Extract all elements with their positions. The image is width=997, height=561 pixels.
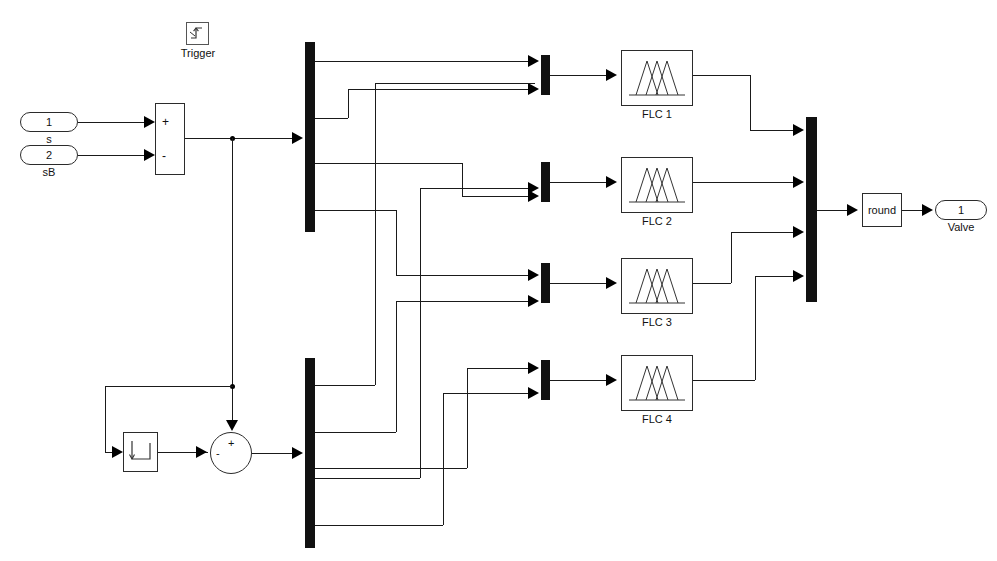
- flc-3-block[interactable]: [621, 258, 693, 314]
- input-port-s[interactable]: 1: [20, 112, 78, 132]
- demux-bottom-out-1-seg1: [315, 385, 375, 386]
- flc-4-label: FLC 4: [621, 413, 693, 426]
- wire-flc3-out-seg2: [731, 232, 732, 283]
- wire-sB-to-sum: [78, 155, 147, 156]
- arrow-into-flc2: [606, 176, 617, 188]
- wire-mux3-to-flc3: [550, 283, 608, 284]
- sum-block[interactable]: [155, 103, 185, 175]
- arrow-into-unit-delay: [112, 446, 123, 458]
- flc-3-label: FLC 3: [621, 316, 693, 329]
- mux-flc-4-block[interactable]: [541, 360, 550, 400]
- output-port-valve[interactable]: 1: [935, 200, 987, 220]
- sum-block-minus-sign: -: [162, 150, 166, 162]
- wire-branch-to-delay-left: [105, 386, 106, 452]
- demux-top-out-4-seg3: [396, 275, 535, 276]
- wire-mux1-to-flc1: [550, 75, 608, 76]
- demux-bottom-out-3-seg1: [315, 478, 420, 479]
- trigger-block[interactable]: [186, 22, 209, 45]
- demux-top-out-2-seg1: [315, 118, 348, 119]
- arrow-demux-top-4-to-mux3: [528, 269, 539, 281]
- mux-flc-2-block[interactable]: [541, 162, 550, 202]
- demux-top-out-4-seg1: [315, 210, 396, 211]
- demux-top-block[interactable]: [305, 42, 315, 232]
- demux-bottom-out-2-seg2: [396, 301, 397, 432]
- sum-circle-plus-sign: +: [228, 438, 234, 449]
- wire-mux-right-to-round: [817, 210, 849, 211]
- demux-top-out-3-seg2: [462, 163, 463, 196]
- rising-edge-trigger-icon: [187, 23, 208, 44]
- wire-to-mux4-top-tail: [315, 468, 467, 469]
- output-port-valve-number: 1: [958, 204, 964, 216]
- arrow-into-demux-top: [292, 132, 303, 144]
- round-block[interactable]: round: [862, 193, 902, 227]
- arrow-demux-top-2-to-mux1: [528, 83, 539, 95]
- wire-flc3-out-seg1: [693, 283, 731, 284]
- arrow-into-flc1: [606, 69, 617, 81]
- wire-flc3-out-seg3: [731, 232, 800, 233]
- wire-flc1-out-seg1: [693, 75, 750, 76]
- mux-flc-3-block[interactable]: [541, 263, 550, 303]
- arrow-flc1-into-mux-right: [793, 124, 804, 136]
- round-block-label: round: [868, 204, 896, 216]
- demux-bottom-out-3-seg3: [420, 188, 535, 189]
- wire-s-to-sum: [78, 122, 147, 123]
- demux-top-out-4-seg2: [396, 210, 397, 275]
- arrow-demux-bottom-4-to-mux4: [528, 387, 539, 399]
- arrow-flc4-into-mux-right: [793, 270, 804, 282]
- flc-1-label: FLC 1: [621, 108, 693, 121]
- arrow-into-flc4: [606, 374, 617, 386]
- demux-bottom-out-4-seg1: [315, 525, 443, 526]
- sum-circle-minus-sign: -: [216, 448, 220, 459]
- mux-flc-1-block[interactable]: [541, 55, 550, 95]
- unit-delay-block[interactable]: [123, 432, 158, 472]
- wire-demux-bottom-1-to-mux1: [375, 83, 535, 84]
- triangular-membership-functions-icon: [622, 356, 692, 410]
- output-port-valve-label: Valve: [935, 221, 987, 234]
- arrow-sB-to-sum: [144, 149, 155, 161]
- arrow-into-round: [847, 204, 858, 216]
- arrow-flc2-into-mux-right: [793, 176, 804, 188]
- arrow-into-sum-circle-left: [196, 446, 207, 458]
- input-port-sB-number: 2: [46, 149, 52, 161]
- demux-bottom-out-4-seg2: [443, 393, 444, 525]
- mux-right-block[interactable]: [806, 117, 817, 302]
- demux-top-out-2-seg3: [348, 89, 535, 90]
- wire-flc1-out-seg2: [750, 75, 751, 130]
- input-port-sB-label: sB: [20, 166, 78, 179]
- wire-mux2-to-flc2: [550, 182, 608, 183]
- flc-2-label: FLC 2: [621, 215, 693, 228]
- demux-bottom-out-2-seg3: [396, 301, 535, 302]
- input-port-sB[interactable]: 2: [20, 145, 78, 165]
- arrow-s-to-sum: [144, 116, 155, 128]
- wire-branch-to-delay-top: [105, 386, 233, 387]
- wire-mux4-to-flc4: [550, 380, 608, 381]
- demux-bottom-block[interactable]: [305, 358, 315, 548]
- flc-2-block[interactable]: [621, 157, 693, 213]
- demux-top-out-2-seg2: [348, 89, 349, 118]
- arrow-demux-top-1-to-mux1: [528, 55, 539, 67]
- demux-bottom-out-1-seg2: [375, 83, 376, 385]
- triangular-membership-functions-icon: [622, 158, 692, 212]
- flc-1-block[interactable]: [621, 50, 693, 106]
- wire-to-mux4-top: [467, 368, 535, 369]
- arrow-to-mux4-top: [528, 362, 539, 374]
- demux-bottom-out-4-seg3: [443, 393, 535, 394]
- triangular-membership-functions-icon: [622, 259, 692, 313]
- wire-sum-to-demux-top: [185, 138, 298, 139]
- simulink-diagram-canvas: 1 s 2 sB Trigger + -: [0, 0, 997, 561]
- arrow-demux-bottom-2-to-mux3: [528, 295, 539, 307]
- input-port-s-number: 1: [46, 116, 52, 128]
- triangular-membership-functions-icon: [622, 51, 692, 105]
- wire-flc4-out-seg2: [755, 276, 756, 380]
- trigger-block-label: Trigger: [168, 47, 228, 60]
- arrow-into-valve: [922, 204, 933, 216]
- flc-4-block[interactable]: [621, 355, 693, 411]
- arrow-into-flc3: [606, 277, 617, 289]
- wire-flc4-out-seg1: [693, 380, 755, 381]
- demux-bottom-out-2-seg1: [315, 432, 396, 433]
- arrow-into-sum-circle-top: [226, 420, 238, 431]
- demux-bottom-out-3-seg2: [420, 188, 421, 478]
- arrow-flc3-into-mux-right: [793, 226, 804, 238]
- wire-to-mux4-top-riser: [467, 368, 468, 468]
- arrow-into-demux-bottom: [292, 447, 303, 459]
